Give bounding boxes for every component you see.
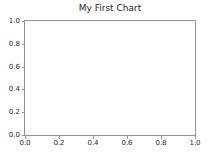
xtick-mark [195,135,196,139]
ytick-label: 0.8 [9,40,20,48]
xtick-label: 0.8 [155,139,166,147]
chart-title: My First Chart [24,3,196,14]
ytick-label: 0.6 [9,63,20,71]
ytick-label: 0.4 [9,85,20,93]
xtick-mark [161,135,162,139]
ytick-label: 0.0 [9,131,20,139]
xtick-mark [93,135,94,139]
xtick-label: 1.0 [189,139,200,147]
chart-figure: My First Chart 0.0 0.2 0.4 0.6 0.8 1.0 [0,0,209,159]
ytick-label: 0.2 [9,108,20,116]
xtick-label: 0.2 [53,139,64,147]
xtick-mark [25,135,26,139]
xtick-label: 0.0 [19,139,30,147]
xtick-label: 0.6 [121,139,132,147]
xtick-label: 0.4 [87,139,98,147]
xtick-mark [127,135,128,139]
xtick-mark [59,135,60,139]
plot-area: 0.0 0.2 0.4 0.6 0.8 1.0 0.0 0.2 [24,20,196,136]
data-series-layer [25,21,195,135]
ytick-label: 1.0 [9,17,20,25]
